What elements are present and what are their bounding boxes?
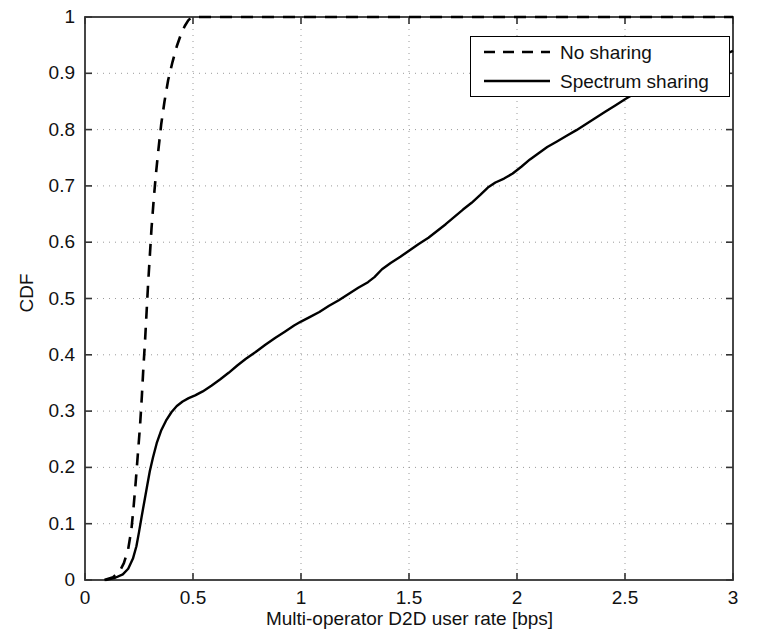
y-tick-label: 0 [3,570,75,589]
y-tick-label: 0.6 [3,232,75,251]
series-line-no-sharing [104,17,733,580]
series-line-spectrum-sharing [106,51,733,580]
cdf-chart-figure: 00.10.20.30.40.50.60.70.80.91 00.511.522… [0,0,760,643]
y-tick-label: 0.7 [3,176,75,195]
x-tick-label: 2.5 [585,588,665,607]
x-tick-label: 2 [477,588,557,607]
y-tick-label: 1 [3,7,75,26]
y-axis-title: CDF [16,253,38,333]
y-tick-label: 0.4 [3,345,75,364]
x-tick-label: 1.5 [369,588,449,607]
legend-label-no-sharing: No sharing [560,43,652,62]
y-tick-label: 0.1 [3,514,75,533]
legend-label-spectrum-sharing: Spectrum sharing [560,72,709,91]
y-tick-label: 0.8 [3,120,75,139]
legend-entry-spectrum-sharing: Spectrum sharing [471,66,729,96]
x-tick-label: 1 [261,588,341,607]
y-tick-label: 0.5 [3,289,75,308]
y-tick-label: 0.3 [3,401,75,420]
legend-swatch-solid [482,72,552,90]
x-axis-title: Multi-operator D2D user rate [bps] [85,608,734,630]
data-series [104,17,733,580]
x-tick-label: 0.5 [153,588,233,607]
y-tick-label: 0.2 [3,457,75,476]
x-tick-label: 0 [45,588,125,607]
legend: No sharing Spectrum sharing [470,36,730,97]
legend-swatch-dashed [482,43,552,61]
grid-lines [85,17,733,580]
y-tick-label: 0.9 [3,63,75,82]
legend-entry-no-sharing: No sharing [471,37,729,67]
x-tick-label: 3 [693,588,760,607]
